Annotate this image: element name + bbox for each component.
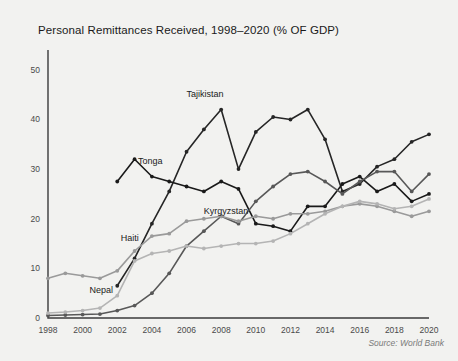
y-tick-40: 40 [31, 114, 41, 124]
x-tick-2002: 2002 [108, 325, 127, 335]
x-tick-2012: 2012 [281, 325, 300, 335]
series-marker-kyrgyzstan [375, 170, 379, 174]
series-marker-tonga [237, 187, 241, 191]
series-marker-kyrgyzstan [167, 271, 171, 275]
series-marker-tonga [323, 204, 327, 208]
series-marker-kyrgyzstan [427, 172, 431, 176]
series-label-tonga: Tonga [138, 156, 163, 166]
series-marker-kyrgyzstan [98, 312, 102, 316]
series-label-tajikistan: Tajikistan [187, 89, 224, 99]
series-marker-nepal [306, 222, 310, 226]
series-marker-tonga [115, 180, 119, 184]
series-marker-nepal [289, 232, 293, 236]
series-marker-kyrgyzstan [133, 304, 137, 308]
series-marker-tajikistan [219, 108, 223, 112]
y-tick-0: 0 [35, 313, 40, 323]
series-marker-tajikistan [289, 118, 293, 122]
series-marker-tajikistan [167, 190, 171, 194]
series-marker-tajikistan [323, 137, 327, 141]
series-marker-kyrgyzstan [150, 291, 154, 295]
series-marker-haiti [237, 219, 241, 223]
y-tick-50: 50 [31, 65, 41, 75]
series-marker-haiti [254, 214, 258, 218]
series-marker-tonga [306, 204, 310, 208]
series-marker-kyrgyzstan [271, 185, 275, 189]
series-marker-tonga [427, 192, 431, 196]
series-marker-haiti [271, 217, 275, 221]
series-marker-tajikistan [115, 284, 119, 288]
x-tick-2000: 2000 [73, 325, 92, 335]
series-marker-tajikistan [202, 128, 206, 132]
series-marker-tajikistan [375, 165, 379, 169]
series-marker-nepal [271, 239, 275, 243]
series-marker-haiti [410, 214, 414, 218]
series-marker-kyrgyzstan [410, 190, 414, 194]
series-marker-nepal [46, 311, 50, 315]
series-marker-tonga [358, 175, 362, 179]
x-tick-2008: 2008 [212, 325, 231, 335]
series-marker-tonga [271, 224, 275, 228]
series-marker-haiti [306, 212, 310, 216]
series-marker-nepal [237, 242, 241, 246]
series-marker-kyrgyzstan [358, 180, 362, 184]
series-marker-tajikistan [427, 132, 431, 136]
series-line-nepal [48, 199, 429, 313]
series-marker-haiti [289, 212, 293, 216]
series-marker-nepal [219, 244, 223, 248]
x-axis-tick-labels: 1998200020022004200620082010201220142016… [39, 325, 439, 335]
series-marker-tonga [185, 185, 189, 189]
series-marker-kyrgyzstan [81, 313, 85, 317]
x-tick-1998: 1998 [39, 325, 58, 335]
series-marker-tajikistan [254, 130, 258, 134]
series-marker-tonga [410, 199, 414, 203]
chart-plot-area: 01020304050 1998200020022004200620082010… [0, 0, 458, 361]
series-marker-haiti [427, 209, 431, 213]
y-tick-10: 10 [31, 263, 41, 273]
series-marker-nepal [81, 309, 85, 313]
series-marker-nepal [341, 204, 345, 208]
series-marker-nepal [115, 294, 119, 298]
series-marker-haiti [202, 217, 206, 221]
series-marker-haiti [98, 276, 102, 280]
series-marker-haiti [115, 269, 119, 273]
series-marker-tonga [219, 180, 223, 184]
series-marker-tajikistan [150, 222, 154, 226]
series-marker-nepal [167, 249, 171, 253]
series-marker-kyrgyzstan [392, 170, 396, 174]
series-marker-nepal [375, 202, 379, 206]
series-marker-nepal [410, 204, 414, 208]
series-marker-nepal [392, 207, 396, 211]
series-marker-nepal [427, 197, 431, 201]
series-marker-tonga [392, 182, 396, 186]
x-tick-2010: 2010 [246, 325, 265, 335]
series-marker-kyrgyzstan [115, 309, 119, 313]
series-marker-nepal [150, 252, 154, 256]
series-marker-nepal [98, 306, 102, 310]
y-tick-20: 20 [31, 214, 41, 224]
series-marker-tonga [202, 190, 206, 194]
series-marker-kyrgyzstan [289, 172, 293, 176]
chart-figure: Personal Remittances Received, 1998–2020… [0, 0, 458, 361]
series-marker-nepal [323, 212, 327, 216]
series-marker-haiti [63, 271, 67, 275]
series-label-nepal: Nepal [90, 285, 114, 295]
chart-axes [48, 50, 429, 318]
series-marker-haiti [150, 234, 154, 238]
series-label-haiti: Haiti [121, 233, 139, 243]
series-marker-haiti [81, 274, 85, 278]
series-marker-tajikistan [271, 115, 275, 119]
y-tick-30: 30 [31, 164, 41, 174]
series-marker-kyrgyzstan [341, 192, 345, 196]
series-marker-tajikistan [237, 167, 241, 171]
series-marker-tajikistan [392, 157, 396, 161]
series-marker-nepal [185, 244, 189, 248]
series-marker-tajikistan [410, 140, 414, 144]
series-marker-tajikistan [185, 150, 189, 154]
series-marker-tonga [133, 157, 137, 161]
series-marker-kyrgyzstan [306, 170, 310, 174]
series-marker-haiti [133, 249, 137, 253]
series-marker-haiti [167, 232, 171, 236]
series-marker-haiti [46, 276, 50, 280]
x-tick-2018: 2018 [385, 325, 404, 335]
x-tick-2014: 2014 [316, 325, 335, 335]
